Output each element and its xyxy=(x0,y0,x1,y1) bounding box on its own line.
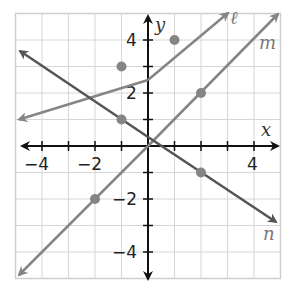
line-l-label: ℓ xyxy=(230,7,238,28)
coordinate-plane: −4 −2 4 4 2 −2 −4 x y ℓ m n xyxy=(0,0,299,297)
point-m-1 xyxy=(90,194,100,204)
y-axis-label: y xyxy=(154,14,166,35)
y-tick-label-neg4: −4 xyxy=(112,242,137,262)
x-tick-label-4: 4 xyxy=(247,154,258,174)
point-n-2 xyxy=(196,168,206,178)
point-m-2 xyxy=(196,88,206,98)
x-tick-label-neg2: −2 xyxy=(77,154,102,174)
point-l-1 xyxy=(117,62,127,72)
point-n-1 xyxy=(117,115,127,125)
x-tick-label-neg4: −4 xyxy=(24,154,49,174)
line-m-label: m xyxy=(259,32,276,53)
point-l-2 xyxy=(170,35,180,45)
y-tick-label-neg2: −2 xyxy=(112,189,137,209)
axes xyxy=(22,16,278,279)
x-axis-label: x xyxy=(261,119,271,140)
line-n-label: n xyxy=(263,223,275,244)
y-tick-label-4: 4 xyxy=(126,30,137,50)
